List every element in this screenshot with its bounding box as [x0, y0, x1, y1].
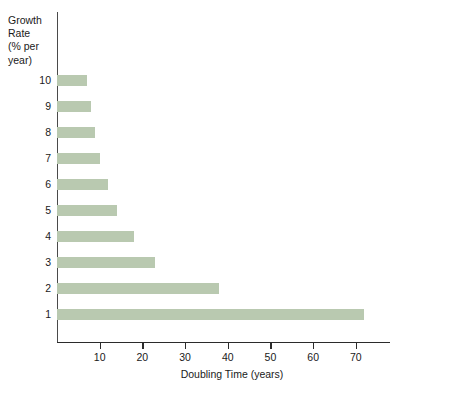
- x-tick-label: 70: [341, 351, 371, 364]
- bar: [57, 153, 100, 164]
- x-tick: [142, 343, 143, 349]
- y-axis-title: Growth Rate (% per year): [8, 14, 54, 67]
- bar: [57, 257, 155, 268]
- bar-row: 7: [57, 146, 390, 172]
- bar-row: 3: [57, 250, 390, 276]
- x-tick-label: 60: [298, 351, 328, 364]
- y-tick-label: 9: [11, 100, 51, 113]
- x-tick-label: 30: [170, 351, 200, 364]
- bar-row: 5: [57, 198, 390, 224]
- bar-row: 1: [57, 302, 390, 328]
- x-tick: [356, 343, 357, 349]
- y-tick-label: 7: [11, 152, 51, 165]
- doubling-time-bar-chart: Growth Rate (% per year) 10987654321 102…: [0, 0, 464, 400]
- x-tick: [185, 343, 186, 349]
- bar-row: 6: [57, 172, 390, 198]
- x-tick-label: 20: [127, 351, 157, 364]
- bar: [57, 127, 95, 138]
- x-tick: [270, 343, 271, 349]
- x-tick-label: 50: [255, 351, 285, 364]
- y-tick-label: 3: [11, 256, 51, 269]
- bar-row: 8: [57, 120, 390, 146]
- y-tick-label: 2: [11, 282, 51, 295]
- y-tick-label: 4: [11, 230, 51, 243]
- bar: [57, 75, 87, 86]
- bar-row: 2: [57, 276, 390, 302]
- plot-area: 10987654321 10203040506070: [57, 12, 390, 343]
- bar-row: 10: [57, 68, 390, 94]
- x-tick: [228, 343, 229, 349]
- x-axis-title: Doubling Time (years): [0, 368, 464, 380]
- bar: [57, 283, 219, 294]
- x-tick-label: 10: [85, 351, 115, 364]
- bar-row: 9: [57, 94, 390, 120]
- y-tick-label: 1: [11, 308, 51, 321]
- y-tick-label: 5: [11, 204, 51, 217]
- x-tick: [100, 343, 101, 349]
- bar: [57, 101, 91, 112]
- bar: [57, 231, 134, 242]
- y-tick-label: 10: [11, 74, 51, 87]
- bar-row: 4: [57, 224, 390, 250]
- x-tick-label: 40: [213, 351, 243, 364]
- bar: [57, 309, 364, 320]
- y-tick-label: 6: [11, 178, 51, 191]
- x-tick: [313, 343, 314, 349]
- bar: [57, 205, 117, 216]
- y-tick-label: 8: [11, 126, 51, 139]
- bar: [57, 179, 108, 190]
- x-axis-line: [57, 342, 390, 343]
